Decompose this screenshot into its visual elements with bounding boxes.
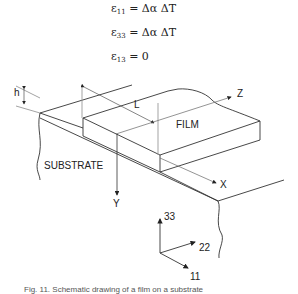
figure-caption: Fig. 11. Schematic drawing of a film on … bbox=[24, 285, 203, 294]
label-h: h bbox=[14, 87, 20, 98]
label-z-axis: Z bbox=[237, 88, 243, 99]
label-film: FILM bbox=[176, 119, 199, 130]
label-L: L bbox=[134, 99, 140, 110]
label-y-axis: Y bbox=[113, 198, 120, 209]
label-axis-22: 22 bbox=[199, 242, 210, 253]
label-axis-33: 33 bbox=[164, 211, 175, 222]
label-substrate: SUBSTRATE bbox=[44, 160, 103, 171]
label-axis-11: 11 bbox=[190, 271, 200, 282]
label-x-axis: X bbox=[220, 179, 227, 190]
